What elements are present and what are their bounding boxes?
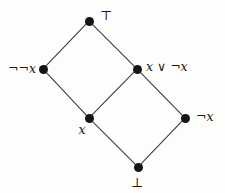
edge-top-to-nnx: [46, 24, 86, 66]
edge-x-to-bottom: [92, 121, 135, 164]
edge-xornotx-to-x: [92, 72, 134, 115]
diagram-edges: [0, 0, 225, 193]
lattice-diagram-figure: ⊤¬¬xx ∨ ¬xx¬x⊥: [0, 0, 225, 193]
node-label-x: x: [78, 124, 85, 137]
edge-xornotx-to-notx: [140, 72, 182, 115]
edge-notx-to-bottom: [141, 121, 182, 164]
node-label-xornotx: x ∨ ¬x: [146, 61, 188, 74]
node-nnx: [39, 65, 48, 74]
node-label-notx: ¬x: [196, 111, 214, 124]
node-label-top: ⊤: [100, 9, 112, 22]
node-x: [85, 114, 94, 123]
edge-top-to-xornotx: [92, 24, 134, 66]
node-label-nnx: ¬¬x: [8, 63, 36, 76]
edge-nnx-to-x: [46, 72, 87, 115]
node-top: [85, 17, 94, 26]
node-bottom: [134, 163, 143, 172]
node-xornotx: [133, 65, 142, 74]
node-label-bottom: ⊥: [131, 176, 143, 189]
node-notx: [181, 114, 190, 123]
